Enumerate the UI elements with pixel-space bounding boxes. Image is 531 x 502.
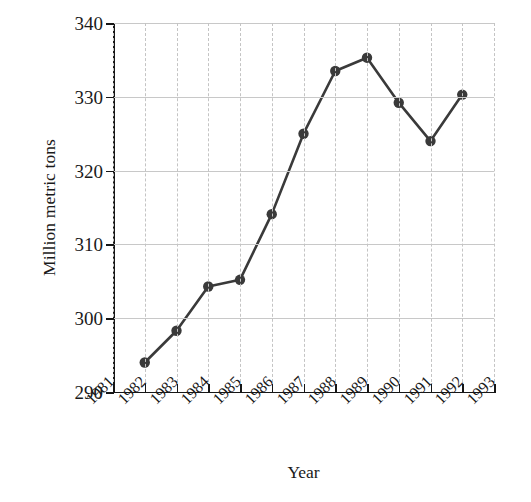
y-axis-tick <box>106 244 114 246</box>
gridline-vertical <box>145 23 146 392</box>
y-axis-tick-labels: 290300310320330340 <box>48 0 103 502</box>
gridline-vertical <box>304 23 305 392</box>
y-axis-tick <box>106 171 114 173</box>
gridline-vertical <box>208 23 209 392</box>
gridline-vertical <box>335 23 336 392</box>
gridline-vertical <box>494 23 495 392</box>
gridline-vertical <box>462 23 463 392</box>
y-axis-tick <box>106 318 114 320</box>
line-chart-figure: Million metric tons 290300310320330340 Y… <box>0 0 531 502</box>
y-axis-tick <box>106 97 114 99</box>
y-axis-tick-label: 340 <box>55 14 103 33</box>
y-axis-tick <box>106 23 114 25</box>
gridline-vertical <box>272 23 273 392</box>
gridline-vertical <box>177 23 178 392</box>
x-axis-title: Year <box>113 462 494 483</box>
gridline-vertical <box>367 23 368 392</box>
gridline-vertical <box>240 23 241 392</box>
gridline-vertical <box>113 23 114 392</box>
y-axis-tick-label: 300 <box>55 309 103 328</box>
gridline-vertical <box>399 23 400 392</box>
plot-area <box>113 23 494 392</box>
y-axis-tick-label: 320 <box>55 162 103 181</box>
gridline-vertical <box>431 23 432 392</box>
y-axis-tick-label: 310 <box>55 235 103 254</box>
y-axis-tick-label: 330 <box>55 88 103 107</box>
